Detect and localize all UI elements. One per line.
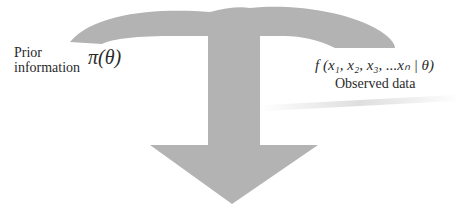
prior-information-label: Prior information (14, 45, 80, 75)
likelihood-formula: f (x₁, x₂, x₃, ...xₙ | θ) (315, 56, 434, 74)
prior-label-line2: information (14, 60, 80, 75)
bayesian-merge-arrow-diagram: Prior information π(θ) f (x₁, x₂, x₃, ..… (0, 0, 469, 224)
prior-formula: π(θ) (88, 46, 121, 69)
prior-label-line1: Prior (14, 45, 80, 60)
merge-arrow-icon (0, 0, 469, 224)
observed-data-label: Observed data (335, 76, 415, 92)
